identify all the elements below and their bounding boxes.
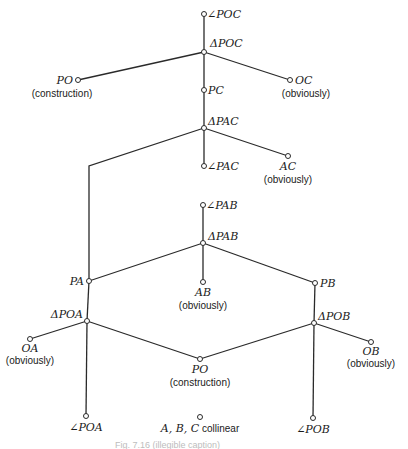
- node-pc: [202, 88, 207, 93]
- node-angle-poa: [84, 414, 89, 419]
- edge-tri-poa-to-oa: [30, 321, 87, 339]
- edge-tri-poc-to-oc: [204, 52, 290, 80]
- proof-tree-diagram: ∠POC ΔPOC PO (construction) OC (obviousl…: [0, 0, 408, 449]
- node-ab: [201, 280, 206, 285]
- label-tri-pob: ΔPOB: [317, 310, 350, 323]
- edge-tri-pab-to-pa: [89, 243, 203, 281]
- node-pb: [313, 281, 318, 286]
- label-tri-poa: ΔPOA: [50, 308, 83, 321]
- node-tri-pob: [312, 321, 317, 326]
- label-angle-poc: ∠POC: [207, 8, 242, 21]
- label-angle-pob: ∠POB: [296, 423, 330, 436]
- label-angle-pab: ∠PAB: [206, 199, 238, 212]
- edge-pb-to-tri-pob: [314, 283, 315, 323]
- note-ab: (obviously): [179, 300, 227, 311]
- node-po-bottom: [198, 357, 203, 362]
- note-ob: (obviously): [347, 358, 395, 369]
- node-tri-pac: [202, 126, 207, 131]
- label-angle-poa: ∠POA: [69, 421, 103, 434]
- note-oa: (obviously): [6, 355, 54, 366]
- edge-tri-pab-to-pb: [203, 243, 315, 283]
- label-collinear-text: collinear: [199, 423, 240, 434]
- node-tri-poc: [202, 50, 207, 55]
- edge-tri-pob-to-po: [200, 323, 314, 359]
- note-po-bottom: (construction): [170, 377, 231, 388]
- label-collinear-vars: A, B, C: [160, 422, 200, 435]
- node-angle-pac: [202, 164, 207, 169]
- edge-tri-poc-to-po: [78, 52, 204, 80]
- label-pb: PB: [319, 277, 336, 290]
- node-angle-pob: [311, 416, 316, 421]
- label-angle-pac: ∠PAC: [207, 160, 240, 173]
- edge-pa-to-tri-poa: [87, 281, 89, 321]
- node-tri-poa: [85, 319, 90, 324]
- note-oc: (obviously): [282, 88, 330, 99]
- node-oc: [288, 78, 293, 83]
- label-po-top: PO: [56, 74, 73, 87]
- label-pc: PC: [207, 84, 224, 97]
- label-ab: AB: [194, 286, 211, 299]
- label-oc: OC: [295, 74, 313, 87]
- node-po-top: [76, 78, 81, 83]
- edge-tri-poa-to-po: [87, 321, 200, 359]
- label-po-bottom: PO: [191, 363, 208, 376]
- note-ac: (obviously): [264, 174, 312, 185]
- labels: ∠POC ΔPOC PO (construction) OC (obviousl…: [6, 8, 395, 449]
- label-ac: AC: [279, 160, 297, 173]
- label-tri-poc: ΔPOC: [209, 37, 243, 50]
- label-oa: OA: [22, 342, 39, 355]
- edge-tri-pob-to-angle-pob: [313, 323, 314, 418]
- label-tri-pac: ΔPAC: [207, 115, 239, 128]
- edge-tri-poa-to-angle-poa: [86, 321, 87, 416]
- node-angle-pab: [201, 203, 206, 208]
- edge-tri-pob-to-ob: [314, 323, 371, 342]
- node-ac: [286, 154, 291, 159]
- note-po-top: (construction): [32, 88, 93, 99]
- label-tri-pab: ΔPAB: [207, 230, 238, 243]
- node-tri-pab: [201, 241, 206, 246]
- node-collinear: [198, 415, 203, 420]
- label-pa: PA: [69, 275, 84, 288]
- nodes: [28, 12, 374, 421]
- edge-tri-pac-to-ac: [204, 128, 288, 156]
- label-collinear: A, B, C collinear: [160, 422, 240, 435]
- label-ob: OB: [362, 345, 379, 358]
- node-ob: [369, 340, 374, 345]
- node-pa: [87, 279, 92, 284]
- edge-tri-pac-to-pa: [89, 128, 204, 281]
- node-oa: [28, 337, 33, 342]
- node-angle-poc: [202, 12, 207, 17]
- figure-caption: Fig. 7.16 (illegible caption): [115, 440, 220, 449]
